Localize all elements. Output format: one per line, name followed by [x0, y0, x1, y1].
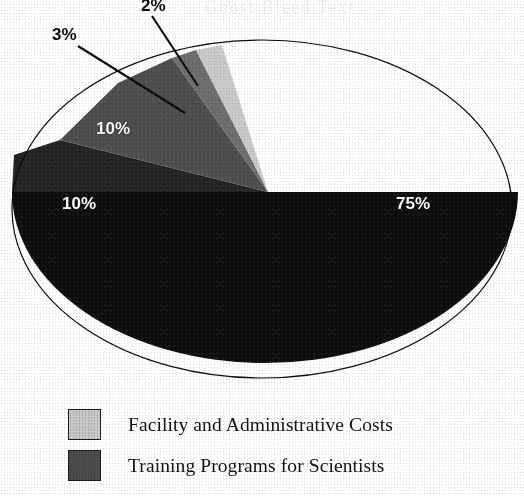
chart-legend: Facility and Administrative Costs Traini…	[68, 404, 508, 486]
swatch-texture	[69, 410, 100, 439]
pie-chart: Ghost Bleed Text 7	[0, 0, 524, 496]
legend-label-training-programs: Training Programs for Scientists	[128, 455, 385, 477]
legend-swatch-training-programs	[68, 450, 101, 481]
legend-label-facility-admin: Facility and Administrative Costs	[128, 414, 393, 436]
swatch-texture	[69, 451, 100, 480]
pie-slices	[12, 45, 518, 363]
pie-slice-75	[12, 192, 518, 363]
legend-swatch-facility-admin	[68, 409, 101, 440]
legend-item-facility-admin: Facility and Administrative Costs	[68, 404, 508, 445]
legend-item-training-programs: Training Programs for Scientists	[68, 445, 508, 486]
